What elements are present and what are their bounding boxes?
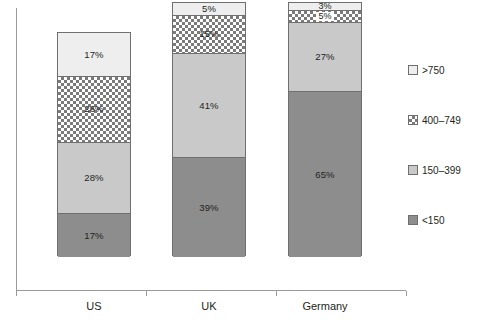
bar-segment-us-400-749[interactable]: 26% (58, 77, 130, 143)
bar-segment-us-lt150[interactable]: 17% (58, 214, 130, 257)
segment-value-label: 3% (318, 3, 331, 11)
legend-label: 150–399 (422, 165, 461, 176)
bar-segment-germany-150-399[interactable]: 27% (289, 23, 361, 92)
bar-germany[interactable]: 3% 5% 27% 65% (288, 2, 362, 256)
plot-area: 17% 26% 28% 17% 5% 15% 41% 39% (0, 0, 406, 292)
segment-value-label: 41% (199, 101, 218, 111)
bar-us[interactable]: 17% 26% 28% 17% (57, 32, 131, 256)
segment-value-label: 28% (84, 173, 103, 183)
segment-value-label: 5% (202, 4, 216, 14)
bar-segment-us-150-399[interactable]: 28% (58, 143, 130, 214)
legend-item-150-399[interactable]: 150–399 (408, 164, 479, 176)
bar-segment-uk-gt750[interactable]: 5% (173, 3, 245, 16)
x-axis-label-germany: Germany (265, 300, 385, 312)
legend-swatch-lt150-icon (408, 215, 418, 225)
segment-value-label: 15% (199, 29, 218, 39)
bar-segment-uk-lt150[interactable]: 39% (173, 158, 245, 257)
bar-segment-germany-400-749[interactable]: 5% (289, 11, 361, 24)
legend-item-400-749[interactable]: 400–749 (408, 114, 479, 126)
legend: >750 400–749 150–399 <150 (408, 64, 479, 226)
legend-item-lt150[interactable]: <150 (408, 214, 479, 226)
segment-value-label: 39% (199, 203, 218, 213)
legend-item-gt750[interactable]: >750 (408, 64, 479, 76)
segment-value-label: 65% (315, 170, 334, 180)
bar-segment-uk-150-399[interactable]: 41% (173, 54, 245, 158)
bar-uk[interactable]: 5% 15% 41% 39% (172, 2, 246, 256)
segment-value-label: 17% (84, 50, 103, 60)
x-axis-tick (406, 291, 407, 296)
stacked-bar-chart: 17% 26% 28% 17% 5% 15% 41% 39% (0, 0, 479, 326)
legend-swatch-150-399-icon (408, 165, 418, 175)
legend-label: <150 (422, 215, 445, 226)
legend-label: >750 (422, 65, 445, 76)
x-axis-label-us: US (34, 300, 154, 312)
segment-value-label: 5% (316, 12, 333, 21)
bar-segment-germany-gt750[interactable]: 3% (289, 3, 361, 11)
segment-value-label: 17% (84, 231, 103, 241)
bar-segment-uk-400-749[interactable]: 15% (173, 16, 245, 54)
bar-segment-us-gt750[interactable]: 17% (58, 33, 130, 76)
segment-value-label: 26% (84, 104, 103, 114)
x-axis-label-uk: UK (149, 300, 269, 312)
legend-label: 400–749 (422, 115, 461, 126)
segment-value-label: 27% (315, 52, 334, 62)
legend-swatch-gt750-icon (408, 65, 418, 75)
legend-swatch-400-749-icon (408, 115, 418, 125)
bar-segment-germany-lt150[interactable]: 65% (289, 92, 361, 257)
